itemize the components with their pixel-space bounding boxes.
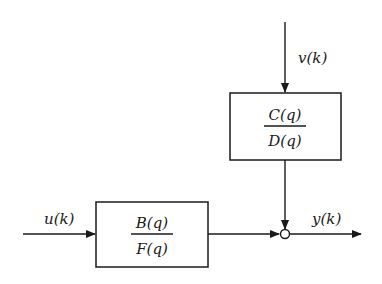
noise-model-numerator: C(q) [269,106,302,124]
output-label: y(k) [311,210,341,228]
plant-numerator: B(q) [135,214,168,232]
noise-label: v(k) [298,49,327,67]
noise-model-block: C(q) D(q) [230,93,341,160]
input-label: u(k) [44,210,75,228]
plant-denominator: F(q) [135,240,168,258]
plant-block: B(q) F(q) [96,202,208,267]
summing-junction [281,230,290,239]
noise-model-denominator: D(q) [267,132,301,150]
block-diagram: u(k) B(q) F(q) v(k) C(q) D(q) y(k) [0,0,382,284]
